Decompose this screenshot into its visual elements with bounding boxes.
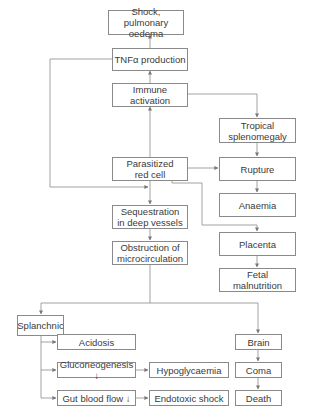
node-sequestration: Sequestration in deep vessels [112, 205, 188, 229]
node-splanchnic: Splanchnic [17, 315, 64, 336]
node-rupture: Rupture [219, 157, 296, 181]
node-coma: Coma [235, 362, 282, 378]
node-tropical-splenomegaly: Tropical splenomegaly [219, 118, 296, 143]
node-tnf-production: TNFα production [112, 48, 188, 71]
node-parasitized-red-cell: Parasitized red cell [112, 157, 188, 181]
node-brain: Brain [235, 334, 282, 350]
node-shock-pulmonary-oedema: Shock, pulmonary oedema [108, 10, 184, 35]
node-endotoxic-shock: Endotoxic shock [149, 390, 229, 406]
node-fetal-malnutrition: Fetal malnutrition [219, 268, 296, 292]
node-hypoglycaemia: Hypoglycaemia [149, 362, 229, 378]
node-gut-blood-flow: Gut blood flow ↓ [57, 390, 136, 406]
node-immune-activation: Immune activation [112, 83, 188, 107]
node-placenta: Placenta [219, 232, 296, 256]
node-acidosis: Acidosis [57, 334, 136, 350]
node-anaemia: Anaemia [219, 193, 296, 217]
node-gluconeogenesis: Gluconeogenesis ↓ [57, 362, 136, 378]
node-death: Death [235, 390, 282, 406]
node-obstruction: Obstruction of microcirculation [112, 241, 188, 265]
